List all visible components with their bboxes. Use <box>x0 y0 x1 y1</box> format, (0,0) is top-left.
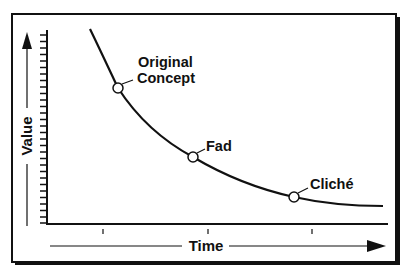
fad-label: Fad <box>206 138 232 154</box>
cliche-label: Cliché <box>310 176 354 192</box>
original-concept-marker <box>113 83 123 93</box>
y-axis-label: Value <box>18 116 35 155</box>
fad-marker <box>188 152 198 162</box>
original-concept-label-line1: Original <box>138 54 193 70</box>
value-over-time-diagram: Value Time Original Concept Fad Cliché <box>0 0 409 276</box>
cliche-marker <box>289 192 299 202</box>
original-concept-label-line2: Concept <box>137 70 195 86</box>
x-axis-label: Time <box>189 237 224 254</box>
